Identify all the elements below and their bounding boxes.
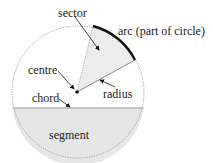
radius-label: radius (103, 87, 133, 101)
centre-label: centre (28, 63, 57, 77)
sector-label: sector (58, 6, 87, 20)
chord-label: chord (32, 91, 59, 105)
radius-arrow (100, 80, 115, 87)
arc-label: arc (part of circle) (118, 24, 205, 38)
chord-arrow (59, 99, 70, 107)
segment-label: segment (49, 128, 90, 142)
centre-arrow (58, 71, 74, 89)
centre-dot (75, 90, 79, 94)
circle-parts-diagram: sector arc (part of circle) centre radiu… (0, 0, 213, 163)
